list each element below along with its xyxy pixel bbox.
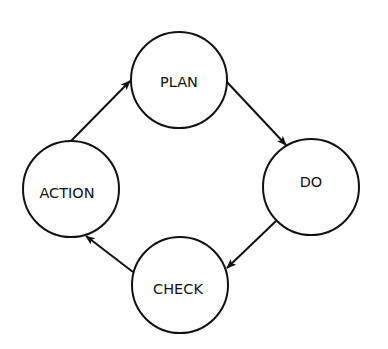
node-do: DO <box>263 139 359 235</box>
node-do-label: DO <box>300 174 323 190</box>
node-plan: PLAN <box>131 32 227 128</box>
pdca-cycle-diagram: PLAN DO CHECK ACTION <box>0 0 388 349</box>
node-action-label: ACTION <box>39 185 94 201</box>
node-check: CHECK <box>132 237 228 333</box>
arrow-action-to-plan <box>71 81 130 141</box>
node-action: ACTION <box>23 141 119 237</box>
node-check-label: CHECK <box>153 281 203 297</box>
node-plan-label: PLAN <box>160 74 198 90</box>
arrow-plan-to-do <box>226 81 286 145</box>
arrow-check-to-action <box>86 236 133 272</box>
arrow-do-to-check <box>227 221 276 268</box>
